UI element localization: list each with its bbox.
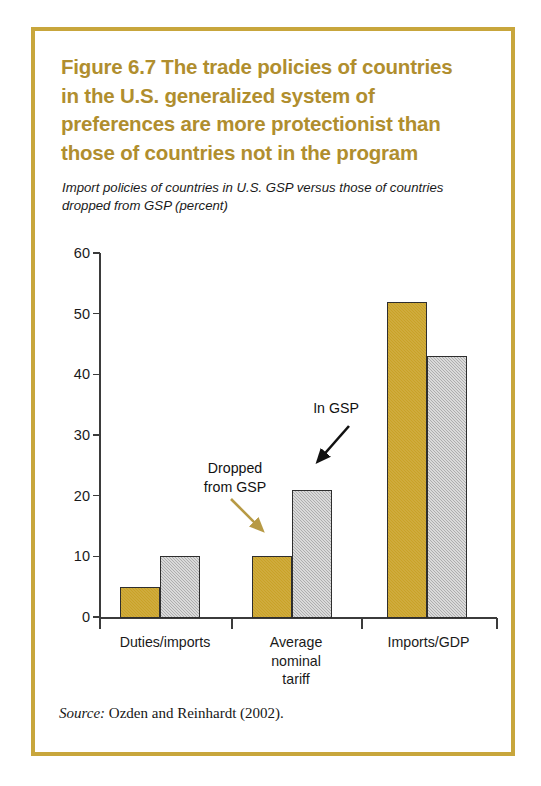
x-axis-category-label-line: Average [231,633,361,652]
bar-duties-imports-dropped-from-gsp [120,587,160,618]
x-axis-category-label-line: nominal [231,652,361,671]
x-axis-category-separator [496,618,498,629]
bar-chart-plot: 0102030405060 Duties/importsAveragenomin… [35,31,519,760]
bar-average-nominal-tariff-dropped-from-gsp [252,556,292,617]
source-citation: Ozden and Reinhardt (2002). [105,705,284,721]
source-label: Source: [59,705,105,721]
annotation-in-gsp: In GSP [293,399,379,418]
arrow-dropped-from-gsp [231,499,260,528]
x-axis-category-label-line: tariff [231,670,361,689]
x-axis-category-label-2: Averagenominaltariff [231,633,361,689]
x-axis-category-label-line: Imports/GDP [361,633,496,652]
y-tick-label: 40 [50,367,90,382]
y-tick-mark [93,252,100,254]
x-axis-category-label-line: Duties/imports [99,633,231,652]
y-tick-label: 50 [50,307,90,322]
y-tick-mark [93,495,100,497]
x-axis-category-separator [231,618,233,629]
x-axis-category-label-3: Imports/GDP [361,633,496,652]
y-tick-label: 20 [50,489,90,504]
bar-average-nominal-tariff-in-gsp [292,490,332,618]
y-tick-label: 30 [50,428,90,443]
x-axis-category-label-1: Duties/imports [99,633,231,652]
y-tick-mark [93,556,100,558]
y-tick-mark [93,374,100,376]
bar-duties-imports-in-gsp [160,556,200,617]
y-tick-label: 60 [50,246,90,261]
x-axis-category-separator [99,618,101,629]
annotation-dropped-line-1: Dropped [183,459,287,478]
bar-imports-gdp-dropped-from-gsp [387,302,427,618]
y-tick-label: 0 [50,610,90,625]
y-tick-label: 10 [50,549,90,564]
annotation-dropped-line-2: from GSP [183,478,287,497]
annotation-dropped-from-gsp: Dropped from GSP [183,459,287,496]
source-note: Source: Ozden and Reinhardt (2002). [59,705,284,722]
figure-panel: Figure 6.7 The trade policies of countri… [31,27,515,756]
bar-imports-gdp-in-gsp [427,356,467,618]
y-tick-mark [93,313,100,315]
y-tick-mark [93,434,100,436]
x-axis-category-separator [361,618,363,629]
arrow-in-gsp [320,426,349,459]
